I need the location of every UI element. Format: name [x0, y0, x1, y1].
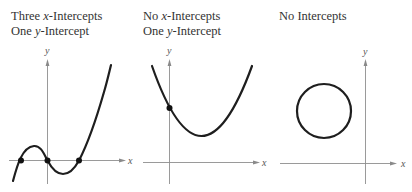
panel-no-x-intercepts: No x-Intercepts One y-Intercept y x [140, 0, 275, 192]
x-axis-arrow-icon [390, 162, 397, 166]
cubic-graph: y x [0, 0, 140, 192]
y-axis-arrow-icon [364, 59, 368, 66]
parabola-curve [152, 66, 252, 136]
parabola-graph: y x [140, 0, 275, 192]
y-axis-label: y [362, 46, 368, 57]
y-axis-label: y [44, 45, 50, 56]
cubic-curve [13, 65, 111, 181]
y-axis-label: y [166, 45, 172, 56]
circle-curve [297, 84, 351, 138]
x-axis-arrow-icon [119, 159, 126, 163]
origin-intercept-point [45, 158, 51, 164]
x-axis-label: x [261, 157, 267, 168]
x-axis-label: x [400, 158, 406, 169]
panel-no-intercepts: No Intercepts y x [275, 0, 412, 192]
x-intercept-point [76, 158, 82, 164]
panel-three-x-intercepts: Three x-Intercepts One y-Intercept y x [0, 0, 140, 192]
y-axis-arrow-icon [46, 59, 50, 66]
y-intercept-point [167, 105, 173, 111]
x-intercept-point [18, 158, 24, 164]
circle-graph: y x [275, 0, 412, 192]
x-axis-label: x [127, 155, 133, 166]
x-axis-arrow-icon [253, 161, 260, 165]
y-axis-arrow-icon [168, 59, 172, 66]
